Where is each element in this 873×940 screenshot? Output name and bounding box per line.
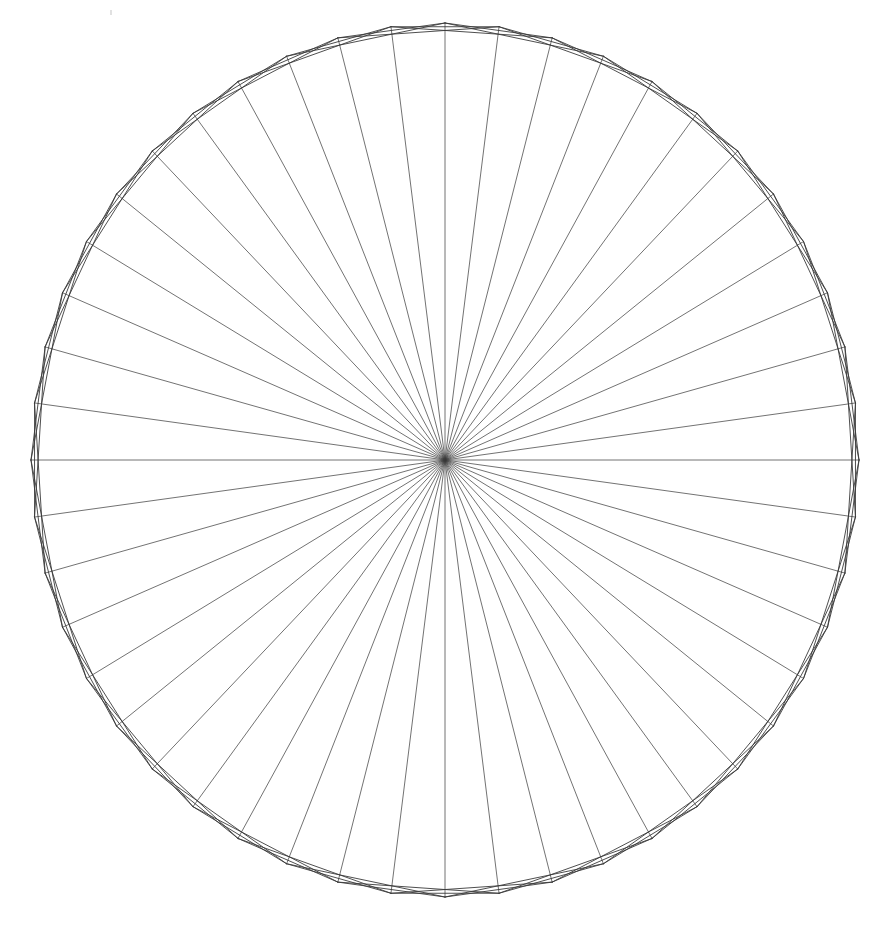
scanner-speck-icon — [110, 10, 112, 15]
figure-background — [0, 0, 873, 940]
star-burst-figure: Radial star burst line figure — [0, 0, 873, 940]
radial-spokes-layer — [31, 23, 859, 897]
